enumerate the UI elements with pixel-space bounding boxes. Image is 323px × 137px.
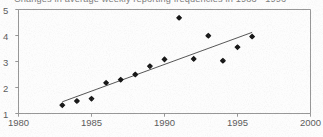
data-point-marker [234,44,240,50]
data-point-marker [59,102,65,108]
data-point-marker [88,96,94,102]
scatter-plot-figure: Changes in average weekly reporting freq… [0,0,323,137]
data-point-marker [147,63,153,69]
data-point-marker [191,56,197,62]
data-point-marker [74,98,80,104]
data-point-marker [132,71,138,77]
x-axis-tick-label: 1980 [8,117,29,128]
y-axis-tick-label: 5 [3,4,8,15]
data-point-marker [161,56,167,62]
data-point-marker [205,33,211,39]
trendline [62,32,252,101]
x-axis-tick-label: 1985 [81,117,102,128]
data-point-marker [118,77,124,83]
y-axis-tick-label: 3 [3,56,8,67]
x-axis-tick-label: 1995 [227,117,248,128]
data-point-marker [249,33,255,39]
data-point-marker [176,15,182,21]
data-point-marker [220,58,226,64]
y-axis-tick-label: 2 [3,82,8,93]
y-axis-tick-label: 1 [3,108,8,119]
x-axis-tick-label: 2000 [300,117,321,128]
y-axis-tick-label: 4 [3,30,8,41]
x-axis-tick-label: 1990 [154,117,175,128]
